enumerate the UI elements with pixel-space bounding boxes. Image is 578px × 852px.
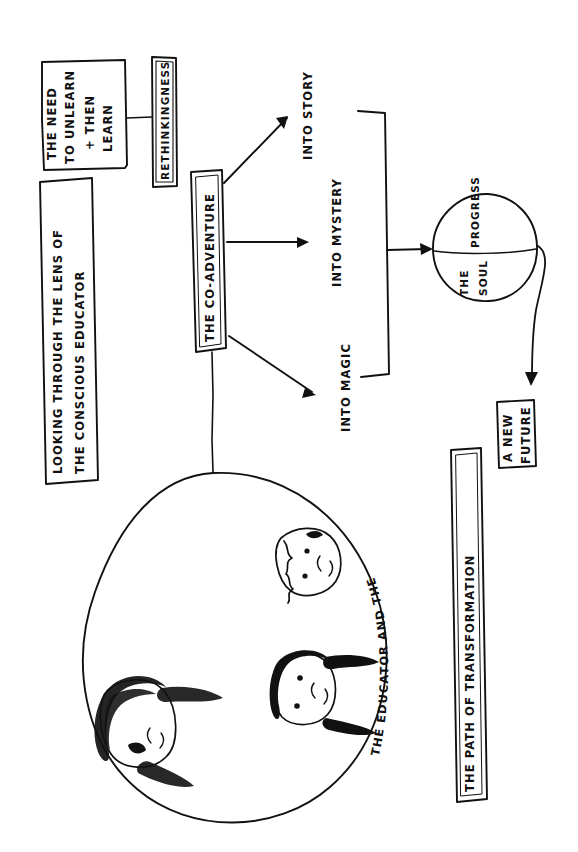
connector-coadventure-children (212, 352, 213, 472)
diagram-canvas: THE NEED TO UNLEARN + THEN LEARN RETHINK… (0, 0, 578, 852)
label-into-story: INTO STORY (301, 71, 315, 160)
node-rethinkingness: RETHINKINGNESS (152, 57, 177, 187)
need-line3: + THEN (83, 95, 97, 150)
connector-arrow-story (224, 116, 288, 183)
connector-arrow-magic (229, 336, 316, 398)
label-into-magic: INTO MAGIC (339, 343, 353, 432)
figure-child-face (276, 528, 341, 603)
connector-arrow-mystery (227, 237, 309, 248)
need-line4: LEARN (101, 104, 115, 152)
figure-adult-dark-hair (270, 650, 379, 735)
soul-label-the: THE (458, 270, 470, 296)
soul-label-soul: SOUL (477, 260, 489, 296)
hand-drawn-diagram: THE NEED TO UNLEARN + THEN LEARN RETHINK… (0, 0, 578, 852)
path-banner-label: THE PATH OF TRANSFORMATION (463, 555, 477, 792)
node-lens-banner: LOOKING THROUGH THE LENS OF THE CONSCIOU… (40, 178, 98, 484)
node-path-banner: THE PATH OF TRANSFORMATION (451, 448, 487, 802)
connector-bracket-to-soul (358, 111, 433, 377)
label-into-mystery: INTO MYSTERY (330, 178, 344, 287)
lens-line1: LOOKING THROUGH THE LENS OF (51, 229, 65, 474)
new-future-line2: FUTURE (519, 406, 533, 464)
node-co-adventure: THE CO-ADVENTURE (191, 170, 226, 352)
node-soul-circle: PROGRESS THE SOUL (433, 176, 537, 301)
need-line2: TO UNLEARN (63, 70, 77, 164)
connector-unlearn-rethinking (127, 117, 152, 118)
figure-adult-long-hair (94, 676, 223, 787)
co-adventure-label: THE CO-ADVENTURE (203, 193, 217, 342)
new-future-line1: A NEW (501, 413, 515, 462)
need-line1: THE NEED (45, 87, 59, 160)
rethinkingness-label: RETHINKINGNESS (159, 61, 171, 180)
node-need-to-unlearn: THE NEED TO UNLEARN + THEN LEARN (42, 60, 127, 170)
node-new-future: A NEW FUTURE (497, 400, 536, 468)
lens-line2: THE CONSCIOUS EDUCATOR (73, 271, 87, 474)
soul-label-progress: PROGRESS (469, 176, 481, 248)
